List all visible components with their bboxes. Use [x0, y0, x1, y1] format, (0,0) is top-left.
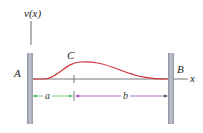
dim-a-arrow-left [33, 95, 37, 98]
x-axis-label: x [189, 72, 195, 84]
left-wall [27, 53, 33, 124]
right-support-label: B [177, 63, 184, 75]
dim-a-label: a [45, 90, 50, 101]
dim-b-arrow-right [164, 95, 168, 98]
vertical-axis-label: v(x) [24, 7, 41, 20]
right-wall [168, 53, 174, 124]
dim-a-arrow-right [69, 95, 73, 98]
peak-point-label: C [67, 49, 75, 61]
dim-b-arrow-left [75, 95, 79, 98]
left-support-label: A [13, 67, 21, 79]
beam-deflection-diagram: v(x) A B x C a b [0, 0, 203, 133]
deflection-curve [33, 62, 168, 79]
dim-b-label: b [123, 90, 128, 101]
